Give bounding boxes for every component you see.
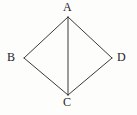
segment-cd: [68, 58, 112, 95]
segment-da: [68, 17, 112, 58]
vertex-label-c: C: [63, 96, 71, 108]
geometry-figure: A B C D: [0, 0, 137, 115]
vertex-label-b: B: [7, 51, 15, 63]
segment-bc: [24, 58, 68, 95]
vertex-label-a: A: [63, 1, 72, 13]
segment-ab: [24, 17, 68, 58]
vertex-label-d: D: [117, 51, 126, 63]
